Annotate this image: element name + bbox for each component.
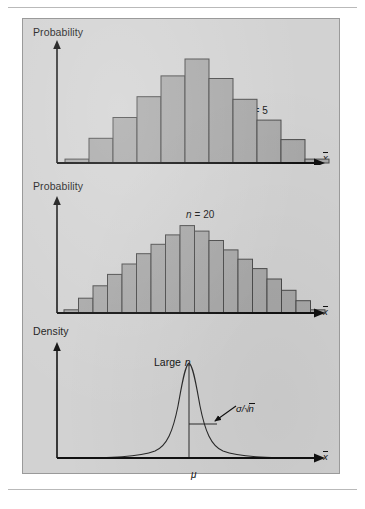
bar	[79, 298, 94, 313]
figure-root: Probability n= 5 x	[0, 0, 365, 509]
bar	[238, 259, 253, 313]
bar	[137, 254, 152, 313]
chart-n5	[31, 35, 331, 165]
bar	[195, 231, 210, 313]
chart-large-n-mean-label: μ	[191, 469, 196, 480]
bar	[180, 226, 195, 313]
bar	[108, 274, 123, 313]
chart-n20-y-axis	[53, 196, 61, 313]
bar	[253, 269, 268, 313]
chart-n5-y-axis	[53, 40, 61, 163]
bar	[209, 79, 233, 164]
bar	[93, 286, 108, 313]
bar	[185, 59, 209, 163]
chart-n5-svg	[31, 35, 331, 165]
bar	[209, 241, 224, 314]
bar	[224, 250, 239, 313]
bar	[267, 279, 282, 313]
chart-large-n-y-axis	[53, 342, 61, 458]
bar	[166, 235, 181, 313]
divider-rule-bottom	[8, 489, 357, 490]
figure-panel: Probability n= 5 x	[22, 18, 340, 474]
bar	[233, 99, 257, 163]
chart-large-n-x-axis	[57, 454, 325, 463]
bar	[281, 140, 305, 163]
bar	[257, 120, 281, 163]
divider-rule-top	[8, 7, 357, 8]
bar	[113, 118, 137, 164]
chart-large-n	[31, 334, 331, 469]
bar	[89, 138, 113, 163]
bar	[282, 290, 297, 313]
sd-pointer-arrow	[215, 406, 236, 421]
chart-n20-bars	[64, 226, 325, 313]
bar	[137, 97, 161, 163]
bar	[151, 244, 166, 313]
chart-n5-bars	[65, 59, 329, 163]
bar	[161, 76, 185, 163]
chart-n20	[31, 189, 331, 319]
bar	[296, 301, 311, 313]
chart-n20-svg	[31, 189, 331, 319]
bar	[122, 264, 137, 313]
chart-large-n-svg	[31, 334, 331, 469]
